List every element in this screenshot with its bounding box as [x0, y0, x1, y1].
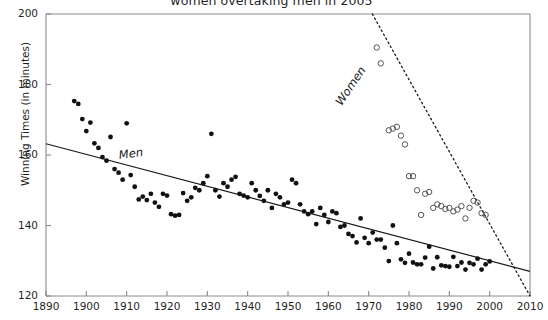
- men-data-point: [76, 101, 81, 106]
- men-data-point: [471, 262, 476, 267]
- men-trendline: [46, 144, 530, 272]
- men-data-point: [447, 264, 452, 269]
- men-data-point: [261, 198, 266, 203]
- men-data-point: [233, 174, 238, 179]
- men-data-point: [257, 193, 262, 198]
- x-tick-label: 1950: [265, 300, 311, 312]
- men-data-point: [298, 202, 303, 207]
- men-data-point: [439, 263, 444, 268]
- women-data-points: [374, 45, 488, 221]
- men-data-point: [403, 260, 408, 265]
- men-data-point: [350, 234, 355, 239]
- men-data-point: [144, 198, 149, 203]
- men-data-point: [148, 191, 153, 196]
- men-series-annotation: Men: [118, 145, 144, 162]
- women-trendline-segment: [372, 14, 530, 296]
- men-data-point: [104, 158, 109, 163]
- men-data-point: [399, 257, 404, 262]
- men-data-point: [354, 240, 359, 245]
- y-axis-tick-marks: [46, 14, 51, 296]
- x-tick-label: 1960: [305, 300, 351, 312]
- x-tick-label: 1900: [63, 300, 109, 312]
- x-tick-label: 1910: [104, 300, 150, 312]
- men-data-point: [310, 209, 315, 214]
- men-data-point: [88, 120, 93, 125]
- x-tick-label: 1970: [346, 300, 392, 312]
- women-data-point: [459, 203, 464, 208]
- men-data-point: [326, 220, 331, 225]
- men-data-point: [185, 198, 190, 203]
- women-trendline: [372, 14, 530, 296]
- men-data-point: [229, 177, 234, 182]
- men-data-point: [217, 194, 222, 199]
- men-data-point: [475, 256, 480, 261]
- men-data-point: [177, 213, 182, 218]
- men-data-point: [378, 237, 383, 242]
- men-data-point: [294, 181, 299, 186]
- men-data-point: [390, 223, 395, 228]
- x-tick-label: 1930: [184, 300, 230, 312]
- men-data-point: [395, 241, 400, 246]
- men-data-point: [366, 241, 371, 246]
- men-data-point: [435, 255, 440, 260]
- men-data-point: [290, 177, 295, 182]
- men-data-point: [225, 184, 230, 189]
- men-data-point: [443, 264, 448, 269]
- men-data-point: [221, 181, 226, 186]
- x-axis-tick-marks: [46, 291, 530, 296]
- men-data-point: [165, 193, 170, 198]
- men-data-point: [108, 135, 113, 140]
- men-data-point: [245, 195, 250, 200]
- men-data-point: [193, 185, 198, 190]
- men-data-point: [386, 259, 391, 264]
- men-data-point: [120, 177, 125, 182]
- men-data-point: [358, 216, 363, 221]
- men-data-point: [274, 191, 279, 196]
- men-data-point: [286, 200, 291, 205]
- men-data-point: [92, 141, 97, 146]
- men-data-point: [459, 260, 464, 265]
- men-data-point: [173, 213, 178, 218]
- x-tick-label: 1920: [144, 300, 190, 312]
- women-data-point: [418, 212, 423, 217]
- women-data-point: [414, 188, 419, 193]
- men-data-point: [322, 213, 327, 218]
- men-data-point: [124, 121, 129, 126]
- y-tick-label: 180: [4, 78, 38, 90]
- women-data-point: [402, 142, 407, 147]
- men-data-point: [362, 235, 367, 240]
- men-data-point: [455, 264, 460, 269]
- women-data-point: [398, 133, 403, 138]
- men-data-point: [253, 188, 258, 193]
- x-tick-label: 2010: [507, 300, 548, 312]
- men-data-point: [483, 262, 488, 267]
- men-trendline-segment: [46, 144, 530, 272]
- men-data-point: [205, 174, 210, 179]
- men-data-point: [100, 155, 105, 160]
- men-data-point: [181, 191, 186, 196]
- women-data-point: [374, 45, 379, 50]
- men-data-point: [132, 184, 137, 189]
- women-data-point: [463, 216, 468, 221]
- men-data-point: [487, 259, 492, 264]
- men-data-point: [72, 99, 77, 104]
- men-data-point: [265, 188, 270, 193]
- men-data-point: [136, 197, 141, 202]
- men-data-point: [116, 170, 121, 175]
- y-tick-label: 140: [4, 219, 38, 231]
- men-data-point: [342, 223, 347, 228]
- men-data-point: [140, 194, 145, 199]
- men-data-point: [80, 117, 85, 122]
- x-tick-label: 2000: [467, 300, 513, 312]
- men-data-point: [84, 129, 89, 134]
- men-data-point: [278, 195, 283, 200]
- men-data-point: [427, 244, 432, 249]
- men-data-point: [318, 205, 323, 210]
- y-tick-label: 160: [4, 148, 38, 160]
- men-data-point: [306, 212, 311, 217]
- men-data-point: [269, 205, 274, 210]
- men-data-point: [213, 188, 218, 193]
- men-data-point: [153, 200, 158, 205]
